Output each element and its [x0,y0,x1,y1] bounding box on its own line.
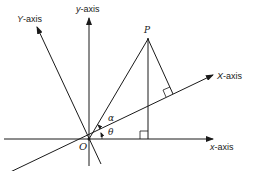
point-p [147,38,149,40]
y-axis-label: y-axis [76,5,100,14]
origin-label: O [79,142,87,152]
x-axis-label: x-axis [210,143,234,152]
rotated-x-axis-line [4,75,213,171]
right-angle-marker-x [140,131,148,139]
point-p-label: P [144,26,150,35]
alpha-arc [98,125,101,129]
alpha-label: α [108,114,114,123]
right-angle-marker-rotated-x [163,87,170,97]
p-perpendicular-to-rotated-x [148,39,173,94]
rotated-x-axis-label: X-axis [217,72,242,81]
theta-arc [101,133,102,139]
origin-point [88,138,91,141]
op-line [89,39,148,139]
rotated-y-axis-label: Y-axis [17,15,42,24]
theta-label: θ [108,128,113,137]
